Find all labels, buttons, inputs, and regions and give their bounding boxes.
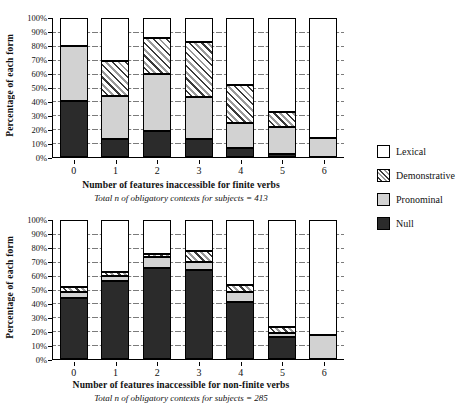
bar-slot — [302, 18, 344, 157]
segment-pronominal — [310, 335, 336, 358]
x-tick-label: 0 — [53, 160, 95, 176]
segment-null — [186, 139, 212, 156]
y-tick-mark — [48, 158, 52, 159]
y-tick-mark — [48, 290, 52, 291]
stacked-bar[interactable] — [268, 18, 296, 157]
segment-demonstrative — [144, 254, 170, 257]
y-tick-label: 10% — [13, 341, 52, 351]
segment-null — [102, 139, 128, 156]
stacked-bar[interactable] — [226, 220, 254, 359]
segment-pronominal — [227, 123, 253, 148]
legend-swatch-null — [377, 217, 390, 230]
segment-lexical — [227, 221, 253, 285]
y-tick-label: 70% — [13, 257, 52, 267]
bar-slot — [95, 220, 137, 359]
stacked-bar[interactable] — [60, 220, 88, 359]
segment-pronominal — [269, 333, 295, 337]
segment-demonstrative — [269, 112, 295, 126]
stacked-bar[interactable] — [226, 18, 254, 157]
x-tick-row-bottom: 0123456 — [53, 362, 345, 378]
bar-slot — [53, 18, 95, 157]
segment-demonstrative — [102, 61, 128, 96]
segment-demonstrative — [144, 38, 170, 74]
y-tick-label: 20% — [13, 327, 52, 337]
segment-null — [227, 302, 253, 358]
x-tick-label: 5 — [262, 160, 304, 176]
y-tick-mark — [48, 332, 52, 333]
y-tick-mark — [48, 276, 52, 277]
x-axis-line-bottom — [52, 359, 344, 360]
stacked-bar[interactable] — [101, 220, 129, 359]
legend: LexicalDemonstrativePronominalNull — [377, 145, 465, 241]
chart-nonfinite-verbs: Percentage of each form 100%90%80%70%60%… — [0, 212, 362, 397]
chart-title-top: Number of features inaccessible for fini… — [0, 179, 362, 190]
legend-label-null: Null — [396, 218, 414, 229]
segment-demonstrative — [186, 42, 212, 97]
x-tick-label: 2 — [136, 362, 178, 378]
legend-label-demonstrative: Demonstrative — [396, 170, 455, 181]
stacked-bar[interactable] — [309, 18, 337, 157]
bar-slot — [178, 18, 220, 157]
bar-slot — [136, 220, 178, 359]
bar-slot — [136, 18, 178, 157]
y-tick-mark — [48, 234, 52, 235]
segment-null — [269, 154, 295, 156]
y-tick-label: 40% — [13, 97, 52, 107]
legend-label-pronominal: Pronominal — [396, 194, 443, 205]
y-tick-mark — [48, 360, 52, 361]
y-tick-mark — [48, 116, 52, 117]
stacked-bar[interactable] — [185, 220, 213, 359]
legend-item-null: Null — [377, 217, 465, 230]
segment-null — [61, 298, 87, 358]
stacked-bar[interactable] — [309, 220, 337, 359]
segment-null — [186, 270, 212, 358]
x-tick-label: 1 — [95, 160, 137, 176]
y-tick-mark — [48, 220, 52, 221]
chart-finite-verbs: Percentage of each form 100%90%80%70%60%… — [0, 10, 362, 200]
plot-area-bottom: 100%90%80%70%60%50%40%30%20%10%0% — [52, 220, 344, 360]
segment-lexical — [310, 19, 336, 138]
y-tick-mark — [48, 144, 52, 145]
x-tick-label: 4 — [220, 160, 262, 176]
x-tick-row-top: 0123456 — [53, 160, 345, 176]
stacked-bar[interactable] — [60, 18, 88, 157]
x-tick-label: 1 — [95, 362, 137, 378]
segment-demonstrative — [227, 285, 253, 292]
bar-slot — [53, 220, 95, 359]
segment-lexical — [61, 19, 87, 46]
legend-label-lexical: Lexical — [396, 146, 426, 157]
x-tick-label: 4 — [220, 362, 262, 378]
legend-item-pronominal: Pronominal — [377, 193, 465, 206]
y-tick-label: 40% — [13, 299, 52, 309]
segment-null — [102, 281, 128, 358]
y-tick-mark — [48, 262, 52, 263]
y-tick-label: 30% — [13, 313, 52, 323]
stacked-bar[interactable] — [101, 18, 129, 157]
segment-demonstrative — [102, 272, 128, 275]
x-ticks-top: 0123456 — [53, 160, 345, 176]
y-tick-label: 90% — [13, 229, 52, 239]
segment-demonstrative — [227, 85, 253, 123]
stacked-bar[interactable] — [268, 220, 296, 359]
x-tick-label: 5 — [262, 362, 304, 378]
segment-null — [61, 101, 87, 156]
y-tick-mark — [48, 304, 52, 305]
y-tick-label: 60% — [13, 271, 52, 281]
y-tick-label: 10% — [13, 139, 52, 149]
y-tick-mark — [48, 32, 52, 33]
segment-pronominal — [186, 262, 212, 270]
y-tick-label: 0% — [13, 153, 52, 163]
bar-slot — [95, 18, 137, 157]
segment-pronominal — [269, 127, 295, 154]
stacked-bar[interactable] — [185, 18, 213, 157]
segment-pronominal — [310, 138, 336, 156]
segment-null — [144, 268, 170, 358]
y-tick-mark — [48, 88, 52, 89]
bars-bottom — [53, 220, 344, 359]
stacked-bar[interactable] — [143, 18, 171, 157]
stacked-bar[interactable] — [143, 220, 171, 359]
y-tick-label: 80% — [13, 243, 52, 253]
y-tick-label: 20% — [13, 125, 52, 135]
chart-title-bottom: Number of features inaccessible for non-… — [0, 379, 362, 390]
x-tick-label: 6 — [303, 160, 345, 176]
